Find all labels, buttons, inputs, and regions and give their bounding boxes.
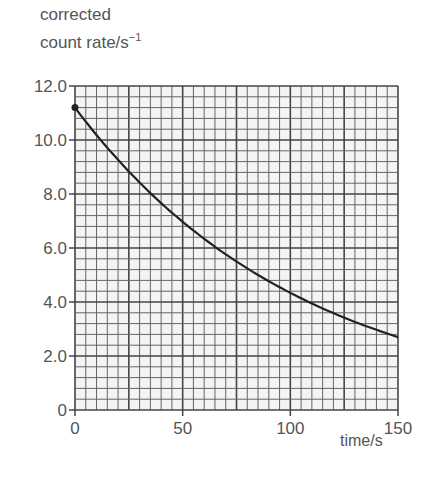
y-tick-label: 4.0 bbox=[43, 293, 67, 312]
decay-chart: 02.04.06.08.010.012.0050100150 bbox=[0, 0, 434, 478]
y-tick-label: 0 bbox=[58, 401, 67, 420]
x-tick-label: 150 bbox=[384, 419, 412, 438]
y-tick-label: 8.0 bbox=[43, 185, 67, 204]
x-tick-label: 0 bbox=[70, 419, 79, 438]
y-tick-label: 2.0 bbox=[43, 347, 67, 366]
x-tick-label: 100 bbox=[276, 419, 304, 438]
x-tick-label: 50 bbox=[173, 419, 192, 438]
y-tick-label: 6.0 bbox=[43, 239, 67, 258]
x-axis-label: time/s bbox=[340, 432, 383, 450]
y-tick-label: 10.0 bbox=[34, 131, 67, 150]
start-point-marker bbox=[72, 104, 79, 111]
y-tick-label: 12.0 bbox=[34, 77, 67, 96]
